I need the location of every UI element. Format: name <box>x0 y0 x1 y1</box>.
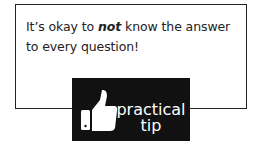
badge-label: practical tip <box>112 102 190 134</box>
tip-text-start: It’s okay to <box>26 19 98 34</box>
tip-text: It’s okay to not know the answer to ever… <box>26 17 241 57</box>
tip-text-emphasis: not <box>98 19 121 34</box>
practical-tip-badge: practical tip <box>72 78 190 141</box>
badge-label-line2: tip <box>112 118 190 134</box>
